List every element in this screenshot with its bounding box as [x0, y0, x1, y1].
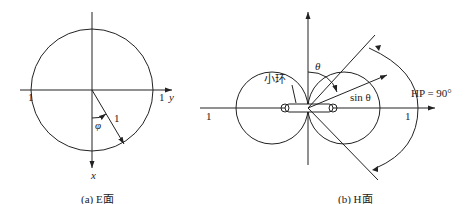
caption-b: (b) H面 — [338, 190, 373, 204]
hp-label: HP = 90° — [411, 88, 452, 99]
antenna-pattern-diagram — [0, 0, 467, 204]
e-plane-pattern — [20, 12, 172, 168]
sin-theta-vector — [308, 75, 387, 108]
loop-label: 小环 — [264, 74, 286, 85]
phi-arc — [92, 114, 106, 118]
theta-arc — [308, 72, 337, 92]
radius-label: 1 — [114, 113, 120, 124]
hp-arrow-top — [375, 45, 381, 51]
hp-arrow-bottom — [372, 166, 378, 172]
hp-line-lower — [308, 108, 378, 180]
x-axis-label: x — [91, 170, 96, 181]
h-plane-pattern — [200, 12, 435, 180]
tick-label-left-b: 1 — [206, 111, 212, 122]
tick-label-right-b: 1 — [405, 111, 411, 122]
tick-label-right: 1 — [159, 92, 165, 103]
sin-theta-label: sin θ — [350, 92, 371, 103]
caption-a: (a) E面 — [81, 190, 114, 204]
theta-label: θ — [315, 61, 320, 72]
phi-label: φ — [95, 120, 101, 131]
tick-label-left: 1 — [28, 92, 34, 103]
y-axis-label: y — [169, 92, 174, 103]
loop-leader-line — [292, 85, 296, 103]
